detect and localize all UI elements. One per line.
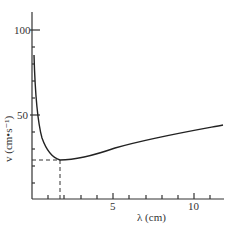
y-tick-100: 100 (14, 24, 31, 36)
velocity-curve (34, 55, 223, 160)
x-tick-5: 5 (110, 200, 116, 212)
x-axis-label: λ (cm) (137, 211, 166, 224)
chart: 100 50 5 10 λ (cm) v (cm•s⁻¹) (0, 0, 233, 230)
x-tick-10: 10 (188, 200, 200, 212)
y-tick-50: 50 (17, 109, 29, 121)
y-axis-label: v (cm•s⁻¹) (2, 115, 15, 162)
minimum-guides (32, 160, 60, 199)
